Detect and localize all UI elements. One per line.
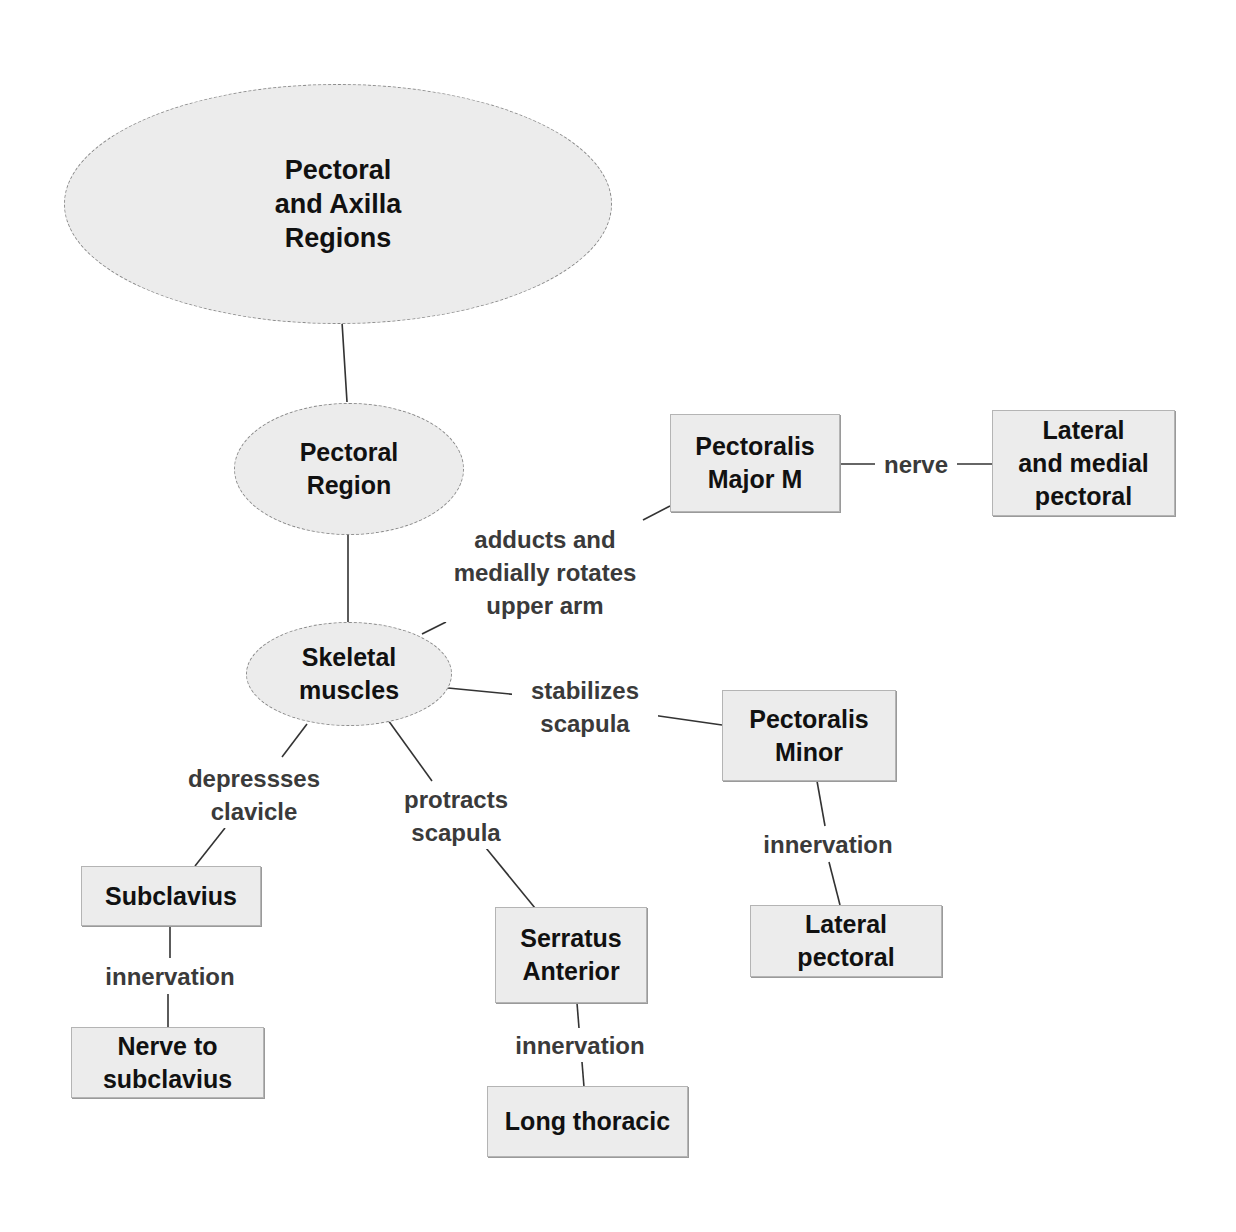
- edge-innervation-to-lateral-pectoral: [829, 862, 840, 905]
- edge-skeletal-to-depresses: [282, 724, 307, 757]
- node-label: Nerve to subclavius: [103, 1030, 232, 1096]
- node-subclavius[interactable]: Subclavius: [81, 866, 261, 926]
- node-lateral-and-medial-pectoral[interactable]: Lateral and medial pectoral: [992, 410, 1175, 516]
- edge-label-nerve: nerve: [875, 448, 957, 481]
- node-label: Pectoralis Minor: [749, 703, 869, 769]
- node-serratus-anterior[interactable]: Serratus Anterior: [495, 907, 647, 1003]
- edge-root-to-pectoral-region: [342, 322, 347, 402]
- node-label: Pectoral Region: [300, 436, 399, 502]
- node-label: Lateral and medial pectoral: [1018, 414, 1149, 513]
- edge-label-innervation-minor: innervation: [746, 828, 910, 861]
- edge-serratus-to-innervation: [577, 1003, 579, 1028]
- edge-protracts-to-serratus: [486, 848, 535, 908]
- node-long-thoracic[interactable]: Long thoracic: [487, 1086, 688, 1157]
- node-lateral-pectoral[interactable]: Lateral pectoral: [750, 905, 942, 977]
- node-label: Subclavius: [105, 880, 237, 913]
- edge-label-depresses: depressses clavicle: [166, 762, 342, 828]
- node-pectoralis-major[interactable]: Pectoralis Major M: [670, 414, 840, 512]
- edge-skeletal-to-stabilizes: [448, 688, 520, 695]
- node-label: Lateral pectoral: [797, 908, 894, 974]
- edge-skeletal-to-protracts: [388, 720, 432, 781]
- node-label: Long thoracic: [505, 1105, 670, 1138]
- edge-label-adducts: adducts and medially rotates upper arm: [430, 523, 660, 622]
- edge-label-stabilizes: stabilizes scapula: [512, 674, 658, 740]
- edge-minor-to-innervation: [817, 781, 825, 826]
- edge-skeletal-to-adducts: [422, 622, 446, 634]
- edge-depresses-to-subclavius: [195, 828, 225, 866]
- node-label: Serratus Anterior: [520, 922, 621, 988]
- node-label: Pectoralis Major M: [695, 430, 815, 496]
- edge-label-protracts: protracts scapula: [382, 783, 530, 849]
- node-skeletal-muscles[interactable]: Skeletal muscles: [246, 622, 452, 726]
- node-pectoralis-minor[interactable]: Pectoralis Minor: [722, 690, 896, 781]
- edge-stabilizes-to-minor: [652, 715, 722, 725]
- edge-adducts-to-pectoralis-major: [643, 506, 670, 520]
- node-pectoral-region[interactable]: Pectoral Region: [234, 403, 464, 535]
- node-label: Skeletal muscles: [299, 641, 399, 707]
- node-pectoral-and-axilla-regions[interactable]: Pectoral and Axilla Regions: [64, 84, 612, 324]
- node-label: Pectoral and Axilla Regions: [275, 153, 402, 255]
- node-nerve-to-subclavius[interactable]: Nerve to subclavius: [71, 1027, 264, 1098]
- edge-label-innervation-serratus: innervation: [497, 1029, 663, 1062]
- edge-innervation-to-long-thoracic: [582, 1062, 584, 1087]
- edge-label-innervation-subclavius: innervation: [87, 960, 253, 993]
